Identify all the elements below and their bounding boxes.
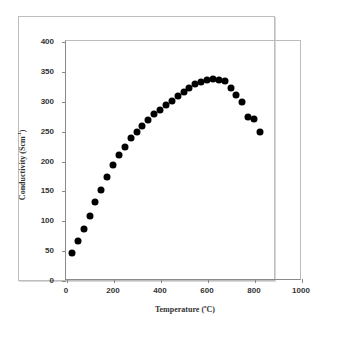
y-tick-label: 0 — [24, 276, 54, 285]
x-axis-title: Temperature (oC) — [115, 304, 255, 314]
data-point — [251, 115, 258, 122]
data-point — [92, 199, 99, 206]
x-tick — [67, 279, 68, 283]
data-point — [115, 151, 122, 158]
y-axis-title: Conductivity (Scm-1) — [17, 105, 27, 225]
data-point — [74, 238, 81, 245]
y-tick-label: 250 — [24, 126, 54, 135]
data-point — [239, 98, 246, 105]
y-tick-label: 350 — [24, 66, 54, 75]
y-tick-label: 300 — [24, 96, 54, 105]
data-point — [133, 128, 140, 135]
data-point — [86, 213, 93, 220]
y-tick — [62, 251, 66, 252]
data-point — [221, 78, 228, 85]
data-point — [139, 122, 146, 129]
data-point — [98, 187, 105, 194]
data-point — [110, 161, 117, 168]
y-tick — [62, 162, 66, 163]
data-point — [68, 250, 75, 257]
y-tick-label: 400 — [24, 37, 54, 46]
y-tick-label: 100 — [24, 216, 54, 225]
data-point — [80, 226, 87, 233]
y-tick — [62, 191, 66, 192]
data-point — [104, 174, 111, 181]
y-tick-label: 200 — [24, 156, 54, 165]
x-tick — [208, 279, 209, 283]
plot-area — [65, 40, 301, 280]
data-point — [256, 129, 263, 136]
data-point — [121, 143, 128, 150]
data-point — [227, 84, 234, 91]
y-tick — [62, 132, 66, 133]
x-tick-label: 1000 — [286, 286, 316, 295]
y-tick — [62, 42, 66, 43]
data-point — [233, 91, 240, 98]
data-point — [127, 135, 134, 142]
x-tick-label: 200 — [98, 286, 128, 295]
x-tick-label: 600 — [192, 286, 222, 295]
y-tick — [62, 281, 66, 282]
y-tick — [62, 102, 66, 103]
y-tick — [62, 221, 66, 222]
y-tick-label: 150 — [24, 186, 54, 195]
y-tick-label: 50 — [24, 246, 54, 255]
x-tick — [255, 279, 256, 283]
x-tick — [302, 279, 303, 283]
x-tick — [114, 279, 115, 283]
x-tick-label: 400 — [145, 286, 175, 295]
x-tick-label: 800 — [239, 286, 269, 295]
y-tick — [62, 72, 66, 73]
data-point — [145, 117, 152, 124]
x-tick — [161, 279, 162, 283]
x-tick-label: 0 — [51, 286, 81, 295]
